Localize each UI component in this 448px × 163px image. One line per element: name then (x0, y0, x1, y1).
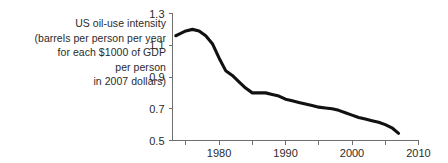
x-axis: 1980199020002010 (173, 141, 431, 159)
y-tick-label: 0.7 (149, 103, 164, 115)
chart-plot-area: 0.50.70.91.11.3 1980199020002010 (0, 0, 448, 163)
x-tick-label: 1990 (273, 147, 297, 159)
x-tick-label: 2000 (340, 147, 364, 159)
x-tick-label: 2010 (406, 147, 430, 159)
y-tick-label: 0.5 (149, 135, 164, 147)
chart-figure: US oil-use intensity (barrels per person… (0, 0, 448, 163)
y-axis: 0.50.70.91.11.3 (149, 8, 172, 147)
y-tick-label: 1.3 (149, 8, 164, 20)
x-tick-label: 1980 (207, 147, 231, 159)
series-line-oil-use-intensity (176, 29, 399, 133)
y-tick-label: 1.1 (149, 39, 164, 51)
data-series-group (176, 29, 399, 133)
y-tick-label: 0.9 (149, 71, 164, 83)
